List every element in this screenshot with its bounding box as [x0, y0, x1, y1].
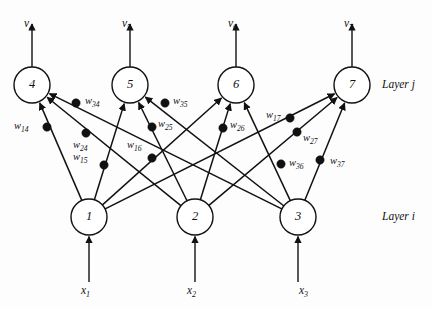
weight-label-w15: w15: [73, 152, 88, 165]
input-label-x3: x3: [299, 285, 308, 299]
weight-label-w16: w16: [127, 140, 142, 153]
layer-i-label: Layer i: [382, 210, 415, 222]
layer-j-label: Layer j: [382, 78, 415, 90]
network-canvas: 1234567: [0, 0, 432, 309]
output-label-v4: v4: [24, 18, 33, 32]
neuron-label-4: 4: [29, 77, 35, 91]
weight-dot-w34: [72, 99, 80, 107]
edge-n2-n6: [200, 104, 230, 201]
neuron-label-7: 7: [349, 77, 356, 91]
neural-network-diagram: 1234567 w14w24w34w15w25w35w16w26w36w17w2…: [0, 0, 432, 309]
weight-dot-w35: [161, 99, 169, 107]
weight-label-w17: w17: [266, 110, 281, 123]
nodes-group: 1234567: [14, 67, 370, 235]
weight-dot-w14: [43, 123, 51, 131]
weight-label-w26: w26: [230, 120, 245, 133]
weight-label-w14: w14: [14, 121, 29, 134]
output-label-v5: v5: [122, 18, 131, 32]
neuron-label-3: 3: [294, 209, 301, 223]
weight-label-w36: w36: [289, 158, 304, 171]
weight-dot-w16: [148, 154, 156, 162]
weight-dot-w36: [277, 160, 285, 168]
weight-dot-w17: [286, 114, 294, 122]
weight-dot-w15: [100, 161, 108, 169]
neuron-label-6: 6: [233, 77, 240, 91]
weight-dot-w24: [82, 129, 90, 137]
neuron-label-5: 5: [127, 77, 133, 91]
weight-label-w34: w34: [85, 96, 100, 109]
weight-dot-w27: [293, 128, 301, 136]
weight-dot-w25: [148, 123, 156, 131]
output-label-v7: v7: [344, 18, 353, 32]
weight-label-w35: w35: [173, 96, 188, 109]
weight-dot-w26: [219, 124, 227, 132]
output-label-v6: v6: [228, 18, 237, 32]
input-label-x1: x1: [81, 285, 90, 299]
edge-n3-n7: [304, 103, 344, 201]
weight-dot-w37: [316, 156, 324, 164]
input-label-x2: x2: [187, 285, 196, 299]
weight-label-w37: w37: [330, 156, 345, 169]
neuron-label-2: 2: [192, 209, 198, 223]
weight-label-w25: w25: [158, 119, 173, 132]
weight-label-w27: w27: [303, 133, 318, 146]
neuron-label-1: 1: [86, 209, 92, 223]
